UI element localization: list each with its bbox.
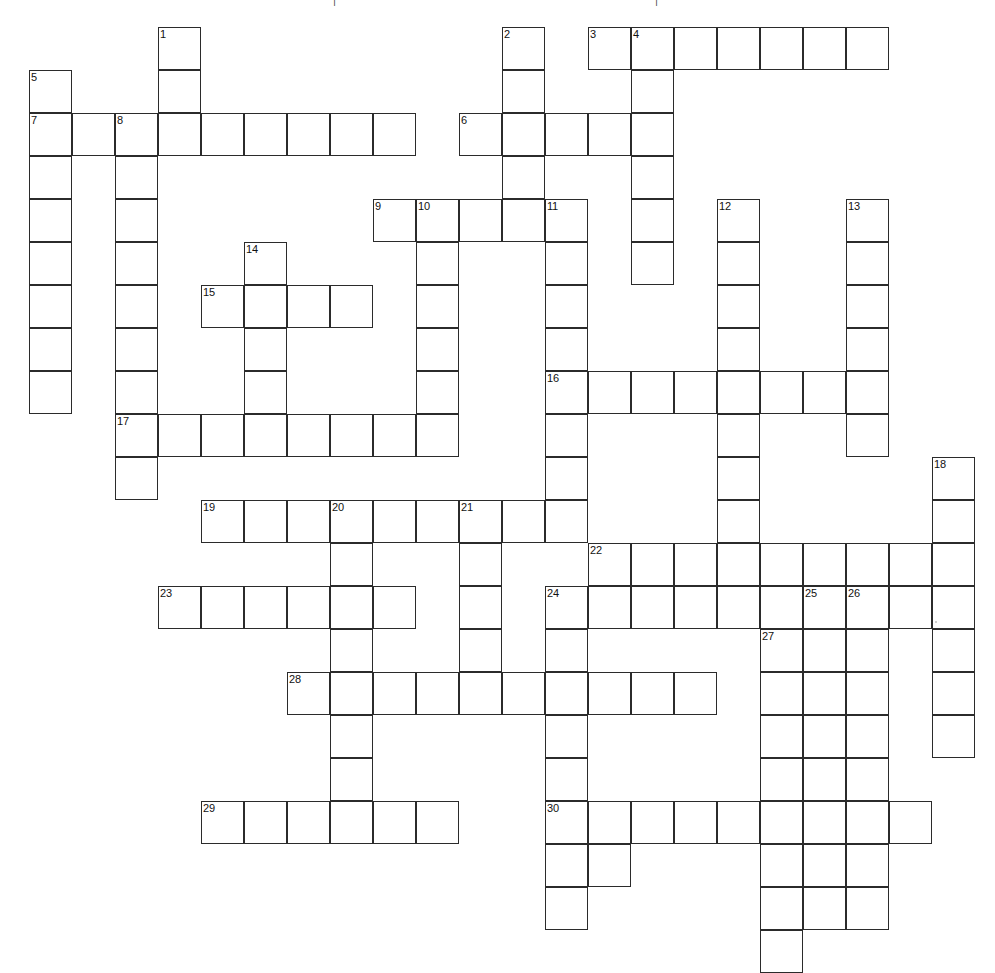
grid-cell-numbered[interactable]: 30 [545, 801, 588, 844]
grid-cell-numbered[interactable]: 9 [373, 199, 416, 242]
grid-cell[interactable] [330, 586, 373, 629]
grid-cell[interactable] [803, 629, 846, 672]
grid-cell[interactable] [416, 242, 459, 285]
grid-cell[interactable] [631, 586, 674, 629]
grid-cell-numbered[interactable]: 22 [588, 543, 631, 586]
grid-cell[interactable] [846, 801, 889, 844]
grid-cell[interactable] [545, 629, 588, 672]
grid-cell[interactable] [717, 328, 760, 371]
grid-cell[interactable] [846, 242, 889, 285]
grid-cell[interactable] [760, 844, 803, 887]
grid-cell-numbered[interactable]: 13 [846, 199, 889, 242]
grid-cell[interactable] [846, 629, 889, 672]
grid-cell[interactable] [760, 715, 803, 758]
grid-cell[interactable] [244, 500, 287, 543]
grid-cell[interactable] [29, 328, 72, 371]
grid-cell-numbered[interactable]: 19 [201, 500, 244, 543]
grid-cell-numbered[interactable]: 17 [115, 414, 158, 457]
grid-cell[interactable] [244, 328, 287, 371]
grid-cell[interactable] [115, 285, 158, 328]
grid-cell[interactable] [330, 715, 373, 758]
grid-cell[interactable] [760, 27, 803, 70]
grid-cell[interactable] [330, 414, 373, 457]
grid-cell[interactable] [760, 543, 803, 586]
grid-cell[interactable] [373, 672, 416, 715]
grid-cell[interactable] [803, 887, 846, 930]
grid-cell[interactable] [330, 113, 373, 156]
grid-cell[interactable] [717, 543, 760, 586]
grid-cell[interactable] [803, 715, 846, 758]
grid-cell-numbered[interactable]: 10 [416, 199, 459, 242]
grid-cell[interactable] [330, 801, 373, 844]
grid-cell[interactable] [115, 156, 158, 199]
grid-cell[interactable] [674, 672, 717, 715]
grid-cell[interactable] [631, 371, 674, 414]
grid-cell[interactable] [846, 285, 889, 328]
grid-cell[interactable] [588, 672, 631, 715]
grid-cell[interactable] [244, 371, 287, 414]
grid-cell[interactable] [373, 113, 416, 156]
grid-cell[interactable] [674, 543, 717, 586]
grid-cell-numbered[interactable]: 7 [29, 113, 72, 156]
grid-cell-numbered[interactable]: 16 [545, 371, 588, 414]
grid-cell[interactable] [416, 414, 459, 457]
grid-cell-numbered[interactable]: 21 [459, 500, 502, 543]
grid-cell[interactable] [201, 113, 244, 156]
grid-cell[interactable] [932, 629, 975, 672]
grid-cell[interactable] [760, 758, 803, 801]
grid-cell[interactable] [760, 801, 803, 844]
grid-cell[interactable] [287, 285, 330, 328]
grid-cell[interactable] [115, 242, 158, 285]
grid-cell[interactable] [846, 27, 889, 70]
grid-cell[interactable] [846, 844, 889, 887]
grid-cell[interactable] [674, 801, 717, 844]
grid-cell[interactable] [416, 672, 459, 715]
grid-cell[interactable] [459, 672, 502, 715]
grid-cell[interactable] [330, 758, 373, 801]
grid-cell[interactable] [545, 715, 588, 758]
grid-cell[interactable] [846, 328, 889, 371]
grid-cell[interactable] [373, 586, 416, 629]
grid-cell[interactable] [803, 801, 846, 844]
grid-cell[interactable] [29, 371, 72, 414]
grid-cell[interactable] [201, 586, 244, 629]
grid-cell[interactable] [588, 371, 631, 414]
grid-cell[interactable] [244, 414, 287, 457]
grid-cell[interactable] [717, 457, 760, 500]
grid-cell[interactable] [373, 500, 416, 543]
grid-cell[interactable] [717, 285, 760, 328]
grid-cell[interactable] [932, 500, 975, 543]
grid-cell[interactable] [803, 371, 846, 414]
grid-cell[interactable] [932, 543, 975, 586]
grid-cell[interactable] [459, 543, 502, 586]
grid-cell[interactable] [717, 371, 760, 414]
grid-cell[interactable] [846, 414, 889, 457]
grid-cell-numbered[interactable]: 20 [330, 500, 373, 543]
grid-cell[interactable] [545, 414, 588, 457]
grid-cell-numbered[interactable]: 18 [932, 457, 975, 500]
grid-cell-numbered[interactable]: 8 [115, 113, 158, 156]
grid-cell[interactable] [416, 285, 459, 328]
grid-cell-numbered[interactable]: 25 [803, 586, 846, 629]
grid-cell[interactable] [459, 199, 502, 242]
grid-cell-numbered[interactable]: 23 [158, 586, 201, 629]
grid-cell[interactable] [760, 930, 803, 973]
grid-cell[interactable] [846, 715, 889, 758]
grid-cell[interactable] [889, 801, 932, 844]
grid-cell[interactable] [330, 285, 373, 328]
grid-cell[interactable] [717, 500, 760, 543]
grid-cell-numbered[interactable]: 24 [545, 586, 588, 629]
grid-cell[interactable] [459, 586, 502, 629]
grid-cell[interactable] [115, 328, 158, 371]
grid-cell[interactable] [674, 27, 717, 70]
grid-cell[interactable] [287, 586, 330, 629]
grid-cell[interactable] [502, 199, 545, 242]
grid-cell[interactable] [889, 543, 932, 586]
grid-cell[interactable] [502, 500, 545, 543]
grid-cell[interactable] [416, 801, 459, 844]
grid-cell[interactable] [244, 801, 287, 844]
grid-cell[interactable] [545, 500, 588, 543]
grid-cell[interactable] [588, 801, 631, 844]
grid-cell[interactable] [72, 113, 115, 156]
grid-cell-numbered[interactable]: 29 [201, 801, 244, 844]
